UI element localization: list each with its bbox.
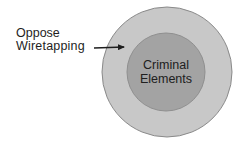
outer-circle-label-line1: Oppose (16, 27, 60, 39)
inner-circle-label-line1: Criminal (126, 58, 206, 72)
outer-circle-label-line2: Wiretapping (16, 40, 85, 52)
inner-circle-label-line2: Elements (126, 72, 206, 86)
